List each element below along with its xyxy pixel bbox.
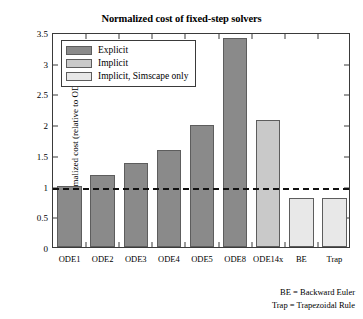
x-axis-tick-label: Trap: [327, 247, 343, 264]
reference-line: [53, 188, 349, 190]
footnote-trap: Trap = Trapezoidal Rule: [272, 299, 355, 312]
bar-ode5: [190, 125, 215, 247]
x-axis-tick-label: ODE5: [191, 247, 213, 264]
y-axis-tick-label: 2: [44, 121, 54, 131]
legend-label-implicit: Implicit: [98, 59, 128, 69]
legend-label-implicit-simscape: Implicit, Simscape only: [98, 72, 189, 82]
legend-swatch-implicit-simscape: [66, 72, 92, 81]
bar-ode8: [223, 38, 248, 247]
x-axis-tick-label: ODE14x: [253, 247, 283, 264]
x-axis-tick-label: ODE2: [92, 247, 114, 264]
legend-item: Implicit: [66, 57, 189, 70]
x-axis-tick-label: ODE8: [224, 247, 246, 264]
y-axis-tick-label: 1: [44, 183, 54, 193]
legend-label-explicit: Explicit: [98, 46, 128, 56]
bar-ode2: [90, 175, 115, 247]
legend-swatch-explicit: [66, 46, 92, 55]
bar-ode1: [57, 186, 82, 247]
x-axis-tick-label: ODE1: [59, 247, 81, 264]
plot-area: Normalized cost (relative to ODE1) 00.51…: [52, 33, 350, 248]
x-axis-tick-label: BE: [296, 247, 307, 264]
x-axis-tick-label: ODE3: [125, 247, 147, 264]
y-axis-tick-label: 1.5: [37, 152, 53, 162]
bar-ode3: [124, 163, 149, 247]
x-axis-tick-label: ODE4: [158, 247, 180, 264]
chart-legend: Explicit Implicit Implicit, Simscape onl…: [61, 40, 196, 87]
bar-trap: [322, 198, 347, 247]
y-axis-tick-label: 3.5: [37, 29, 53, 39]
bar-ode4: [157, 150, 182, 247]
chart-figure: Normalized cost of fixed-step solvers No…: [0, 0, 363, 319]
bar-be: [289, 198, 314, 247]
y-axis-tick-label: 0: [44, 244, 54, 254]
bar-ode14x: [256, 120, 281, 247]
footnote-be: BE = Backward Euler: [272, 286, 355, 299]
y-axis-tick-label: 0.5: [37, 213, 53, 223]
legend-swatch-implicit: [66, 59, 92, 68]
legend-item: Implicit, Simscape only: [66, 70, 189, 83]
chart-footnotes: BE = Backward Euler Trap = Trapezoidal R…: [272, 286, 355, 312]
legend-item: Explicit: [66, 44, 189, 57]
y-axis-tick-label: 3: [44, 60, 54, 70]
y-axis-tick-label: 2.5: [37, 90, 53, 100]
chart-title: Normalized cost of fixed-step solvers: [0, 13, 363, 24]
